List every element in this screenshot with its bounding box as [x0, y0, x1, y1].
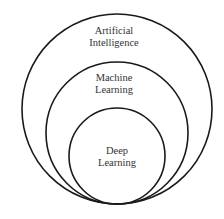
label-line: Artificial — [54, 25, 174, 37]
label-line: Intelligence — [54, 37, 174, 49]
label-line: Deep — [57, 145, 177, 157]
label-line: Machine — [54, 72, 174, 84]
label-line: Learning — [57, 157, 177, 169]
label-line: Learning — [54, 84, 174, 96]
label-artificial-intelligence: Artificial Intelligence — [54, 25, 174, 49]
label-deep-learning: Deep Learning — [57, 145, 177, 169]
label-machine-learning: Machine Learning — [54, 72, 174, 96]
